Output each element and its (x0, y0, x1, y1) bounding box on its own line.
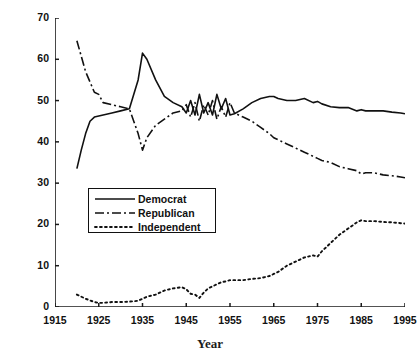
plot-area (55, 18, 405, 307)
x-tick-label: 1915 (35, 314, 75, 326)
y-tick-label: 40 (23, 135, 49, 147)
x-tick-label: 1935 (123, 314, 163, 326)
x-tick-label: 1965 (254, 314, 294, 326)
legend-item-independent: Independent (94, 220, 211, 233)
legend-label: Republican (138, 207, 195, 219)
y-tick-label: 30 (23, 176, 49, 188)
y-tick-label: 60 (23, 52, 49, 64)
x-tick-label: 1945 (166, 314, 206, 326)
legend-swatch-dotted (94, 221, 136, 233)
legend-swatch-dashdot (94, 207, 136, 219)
x-axis-title: Year (0, 336, 420, 352)
x-tick-label: 1985 (341, 314, 381, 326)
chart-figure: Percent of Enrollment Year 7060504030201… (0, 0, 420, 357)
series-line-democrat (77, 53, 405, 169)
y-tick-label: 0 (23, 300, 49, 312)
legend-item-republican: Republican (94, 206, 211, 219)
x-tick-label: 1955 (210, 314, 250, 326)
y-tick-label: 70 (23, 11, 49, 23)
x-tick-label: 1925 (79, 314, 119, 326)
legend-label: Independent (138, 221, 200, 233)
legend-item-democrat: Democrat (94, 192, 211, 205)
y-tick-label: 10 (23, 259, 49, 271)
legend-swatch-solid (94, 193, 136, 205)
plot-svg (55, 18, 405, 307)
y-tick-label: 20 (23, 217, 49, 229)
y-tick-label: 50 (23, 94, 49, 106)
axis-lines (55, 18, 405, 307)
x-tick-label: 1995 (385, 314, 420, 326)
chart-legend: DemocratRepublicanIndependent (88, 188, 216, 233)
legend-label: Democrat (138, 193, 186, 205)
cropped-title-artifact (60, 0, 400, 5)
x-tick-label: 1975 (298, 314, 338, 326)
